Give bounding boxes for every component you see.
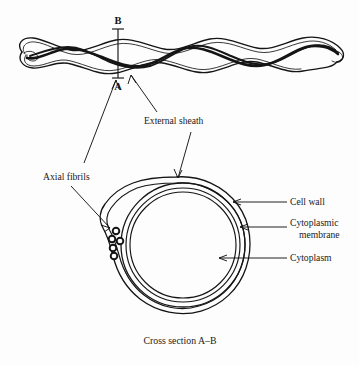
label-cytoplasmic-membrane-line1: Cytoplasmic xyxy=(290,217,339,228)
cell-wall-circle xyxy=(121,183,245,307)
axial-fibril-dot-3 xyxy=(117,238,124,245)
label-cytoplasmic-membrane-line2: membrane xyxy=(299,229,340,240)
leader-axial-fibrils-lower-line xyxy=(71,186,110,228)
figure-caption: Cross section A–B xyxy=(144,335,217,346)
figure-canvas: B A External sheath Axial fibrils xyxy=(0,0,359,365)
cross-section-cell xyxy=(100,177,250,314)
external-sheath-outline xyxy=(100,177,250,314)
label-cell-wall: Cell wall xyxy=(290,196,325,207)
section-label-b: B xyxy=(114,15,121,26)
label-external-sheath: External sheath xyxy=(144,115,204,126)
spirochete-whole-cell xyxy=(20,37,344,74)
section-line-ab: B A xyxy=(112,15,124,92)
label-cytoplasm: Cytoplasm xyxy=(290,252,332,263)
axial-fibril-dot-4 xyxy=(110,245,117,252)
leader-lines-right xyxy=(219,199,287,261)
axial-fibril-dot-2 xyxy=(109,236,116,243)
spirochete-figure: B A External sheath Axial fibrils xyxy=(0,0,359,365)
cytoplasmic-membrane-circle xyxy=(126,188,240,302)
leader-external-sheath-lower-line xyxy=(178,132,191,178)
leader-external-sheath-lower xyxy=(174,132,191,178)
axial-fibril-dot-1 xyxy=(113,228,120,235)
external-sheath-inner-edge xyxy=(107,183,245,309)
label-axial-fibrils: Axial fibrils xyxy=(43,171,90,182)
leader-axial-fibrils-lower xyxy=(71,186,110,232)
arrowhead-external-sheath-upper xyxy=(128,75,136,84)
leader-axial-fibrils-top xyxy=(84,80,116,163)
cytoplasm-circle xyxy=(130,192,236,298)
axial-fibril-strand-b xyxy=(30,45,338,67)
axial-fibril-dot-5 xyxy=(111,253,118,260)
